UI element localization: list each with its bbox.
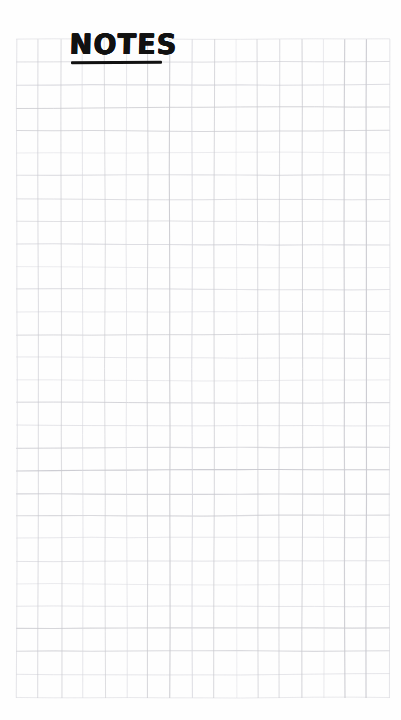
page-title-block: NOTES — [70, 30, 180, 70]
grid-line — [17, 697, 390, 698]
notes-page: NOTES — [0, 0, 401, 720]
page-title: NOTES — [69, 30, 180, 59]
grid-line — [389, 40, 390, 698]
page-title-underline — [71, 61, 162, 64]
notes-writing-area[interactable] — [17, 66, 389, 697]
